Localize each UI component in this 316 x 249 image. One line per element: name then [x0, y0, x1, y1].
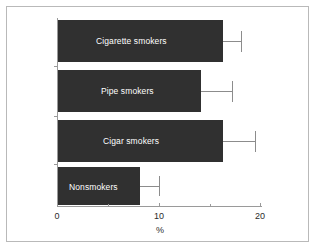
x-axis-minor-tick-5 [108, 204, 109, 207]
bar-label-cigar-smokers: Cigar smokers [103, 136, 159, 146]
error-bar-line-cigarette-smokers [223, 41, 242, 42]
x-axis-tick-10 [159, 203, 160, 207]
plot-area: Cigarette smokers Pipe smokers Cigar smo… [0, 0, 316, 249]
x-axis-tick-0 [57, 203, 58, 207]
x-axis-ticklabel-20: 20 [250, 211, 270, 221]
x-axis-minor-tick-15 [210, 204, 211, 207]
bar-label-nonsmokers: Nonsmokers [69, 182, 118, 192]
error-bar-cap-cigarette-smokers [241, 31, 242, 52]
chart-figure: Cigarette smokers Pipe smokers Cigar smo… [0, 0, 316, 249]
error-bar-cap-nonsmokers [159, 176, 160, 196]
x-axis-ticklabel-0: 0 [47, 211, 67, 221]
x-axis-title: % [150, 225, 170, 235]
bar-label-cigarette-smokers: Cigarette smokers [96, 36, 167, 46]
error-bar-line-nonsmokers [140, 186, 160, 187]
x-axis-ticklabel-10: 10 [149, 211, 169, 221]
bar-label-pipe-smokers: Pipe smokers [101, 86, 154, 96]
error-bar-cap-pipe-smokers [232, 81, 233, 102]
y-axis-tick-2 [54, 164, 58, 165]
error-bar-cap-cigar-smokers [255, 131, 256, 152]
error-bar-line-cigar-smokers [223, 141, 256, 142]
y-axis-tick-0 [54, 66, 58, 67]
y-axis-tick-1 [54, 116, 58, 117]
y-axis-line [57, 18, 58, 207]
error-bar-line-pipe-smokers [201, 91, 233, 92]
x-axis-tick-20 [260, 203, 261, 207]
